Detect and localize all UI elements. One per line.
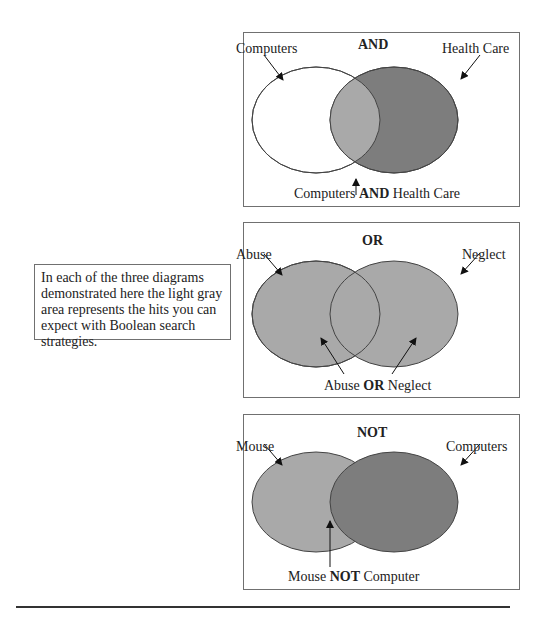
diagram-title: NOT (357, 425, 387, 441)
diagram-title: OR (362, 233, 383, 249)
left-set-label: Abuse (236, 247, 272, 263)
left-set-label: Mouse (236, 439, 274, 455)
and-venn (244, 33, 521, 208)
or-diagram: OR Abuse Neglect Abuse OR Neglect (243, 222, 520, 398)
right-set-label: Neglect (462, 247, 506, 263)
right-set-label: Computers (446, 439, 507, 455)
diagram-caption: Mouse NOT Computer (288, 569, 419, 585)
left-set-label: Computers (236, 41, 297, 57)
note-text: In each of the three diagrams demonstrat… (41, 270, 222, 349)
right-set-label: Health Care (442, 41, 509, 57)
arrow-right-icon (461, 55, 480, 79)
bottom-divider (16, 606, 510, 608)
diagram-title: AND (358, 37, 388, 53)
not-diagram: NOT Mouse Computers Mouse NOT Computer (243, 414, 520, 590)
diagram-caption: Abuse OR Neglect (324, 378, 431, 394)
and-diagram: AND Computers Health Care Computers AND … (243, 32, 520, 207)
diagram-caption: Computers AND Health Care (294, 186, 460, 202)
arrow-left-icon (264, 55, 283, 80)
neglect-circle (330, 261, 458, 367)
computers-circle (330, 452, 458, 552)
explanation-note: In each of the three diagrams demonstrat… (34, 264, 231, 340)
